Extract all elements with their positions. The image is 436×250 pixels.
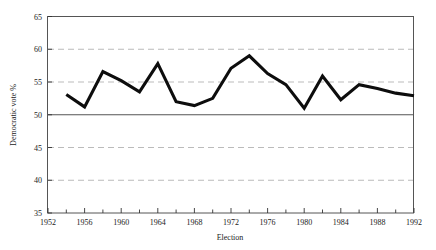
- x-tick-label-1952: 1952: [40, 218, 56, 227]
- y-tick-label-40: 40: [34, 176, 42, 185]
- x-tick-label-1984: 1984: [333, 218, 349, 227]
- y-tick-label-45: 45: [34, 144, 42, 153]
- x-axis: 1952195619601964196819721976198019841988…: [40, 208, 422, 227]
- x-tick-label-1964: 1964: [150, 218, 166, 227]
- y-tick-label-50: 50: [34, 111, 42, 120]
- y-axis-title: Democratic vote %: [9, 84, 18, 146]
- y-tick-label-35: 35: [34, 209, 42, 218]
- x-axis-title: Election: [217, 233, 244, 242]
- x-tick-label-1980: 1980: [296, 218, 312, 227]
- y-tick-label-65: 65: [34, 13, 42, 22]
- x-tick-label-1968: 1968: [186, 218, 202, 227]
- x-tick-label-1972: 1972: [223, 218, 239, 227]
- x-tick-label-1992: 1992: [406, 218, 422, 227]
- x-tick-label-1976: 1976: [260, 218, 276, 227]
- y-tick-label-55: 55: [34, 78, 42, 87]
- x-tick-label-1956: 1956: [77, 218, 93, 227]
- line-chart: 35404550556065 1952195619601964196819721…: [0, 0, 436, 250]
- y-tick-label-60: 60: [34, 45, 42, 54]
- x-tick-label-1960: 1960: [113, 218, 129, 227]
- chart-container: 35404550556065 1952195619601964196819721…: [0, 0, 436, 250]
- x-tick-label-1988: 1988: [369, 218, 385, 227]
